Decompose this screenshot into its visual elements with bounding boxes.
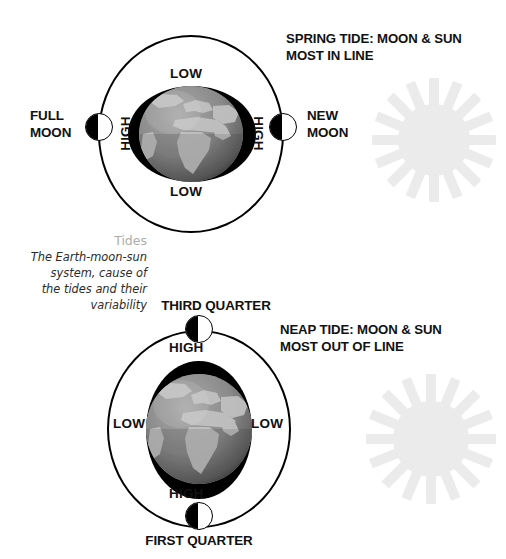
moon-dark-half	[185, 502, 198, 530]
spring-tide-panel: SPRING TIDE: MOON & SUN MOST IN LINE	[0, 0, 506, 250]
earth-svg-neap	[146, 374, 252, 484]
neap-tide-panel: NEAP TIDE: MOON & SUN MOST OUT OF LINE T…	[0, 290, 506, 559]
sun-svg-spring	[372, 78, 496, 202]
sun-icon-neap	[366, 374, 496, 504]
earth-globe-spring	[139, 86, 243, 182]
moon-phase-new-icon	[269, 113, 297, 141]
moon-dark-half	[185, 315, 198, 343]
tide-label-high-left-spring: HIGH	[118, 114, 133, 154]
moon-phase-full-icon	[85, 113, 113, 141]
tide-label-low-left-neap: LOW	[113, 416, 145, 431]
third-quarter-label: THIRD QUARTER	[146, 298, 286, 315]
earth-svg-spring	[139, 86, 243, 182]
spring-tide-headline: SPRING TIDE: MOON & SUN MOST IN LINE	[286, 31, 501, 64]
moon-phase-first-quarter-icon	[185, 502, 213, 530]
tide-label-high-right-spring: HIGH	[251, 114, 266, 154]
tide-label-low-right-neap: LOW	[251, 416, 283, 431]
moon-dark-half	[269, 113, 282, 141]
caption-title: Tides	[22, 233, 147, 249]
tide-label-low-bottom-spring: LOW	[170, 184, 202, 199]
tides-diagram-page: SPRING TIDE: MOON & SUN MOST IN LINE	[0, 0, 506, 559]
moon-dark-half	[85, 113, 98, 141]
neap-tide-headline: NEAP TIDE: MOON & SUN MOST OUT OF LINE	[280, 322, 495, 355]
sun-svg-neap	[366, 374, 496, 504]
full-moon-label: FULL MOON	[30, 108, 86, 141]
sun-icon-spring	[372, 78, 496, 202]
new-moon-label: NEW MOON	[307, 108, 377, 141]
tide-label-low-top-spring: LOW	[170, 66, 202, 81]
tide-label-high-bottom-neap: HIGH	[169, 486, 204, 501]
first-quarter-label: FIRST QUARTER	[129, 533, 269, 550]
earth-globe-neap	[146, 374, 252, 484]
moon-phase-third-quarter-icon	[185, 315, 213, 343]
